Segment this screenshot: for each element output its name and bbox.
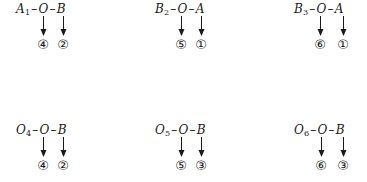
atom-symbol: B xyxy=(294,2,303,16)
formula-group-o4-o-b: O4–O–B ④ ② xyxy=(16,123,126,182)
formula-group-a1-o-b: A1–O–B ④ ② xyxy=(16,2,126,62)
atom-symbol: O xyxy=(294,123,304,137)
bond-dash: – xyxy=(190,123,196,137)
formula-group-o5-o-b: O5–O–B ⑤ ③ xyxy=(155,123,265,182)
atom-symbol: O xyxy=(178,2,188,16)
atom-symbol: O xyxy=(317,2,327,16)
formula-label: B3–O–A xyxy=(294,2,344,16)
atom-symbol: B xyxy=(57,2,66,16)
formula-label: B2–O–A xyxy=(155,2,205,16)
circled-number: ① xyxy=(336,38,350,52)
atom-symbol: A xyxy=(335,2,344,16)
down-arrow-icon xyxy=(177,16,186,36)
atom-subscript: 6 xyxy=(304,129,309,138)
bond-dash: – xyxy=(189,2,195,16)
circled-number: ④ xyxy=(36,159,50,173)
atom-subscript: 1 xyxy=(25,8,30,17)
down-arrow-icon xyxy=(316,16,325,36)
down-arrow-icon xyxy=(339,16,348,36)
atom-symbol: O xyxy=(179,123,189,137)
bond-dash: – xyxy=(32,123,38,137)
atom-symbol: O xyxy=(40,123,50,137)
atom-subscript: 3 xyxy=(303,8,308,17)
bond-dash: – xyxy=(329,123,335,137)
formula-group-o6-o-b: O6–O–B ⑥ ③ xyxy=(294,123,367,182)
formula-label: O4–O–B xyxy=(16,123,67,137)
atom-symbol: B xyxy=(336,123,345,137)
bond-dash: – xyxy=(31,2,37,16)
bond-dash: – xyxy=(49,2,55,16)
bond-dash: – xyxy=(310,123,316,137)
bond-dash: – xyxy=(328,2,334,16)
atom-symbol: A xyxy=(196,2,205,16)
circled-number: ⑥ xyxy=(313,38,327,52)
circled-number: ② xyxy=(56,38,70,52)
down-arrow-icon xyxy=(339,137,348,157)
formula-group-b3-o-a: B3–O–A ⑥ ① xyxy=(294,2,367,62)
atom-symbol: O xyxy=(155,123,165,137)
atom-symbol: O xyxy=(38,2,48,16)
down-arrow-icon xyxy=(39,137,48,157)
down-arrow-icon xyxy=(59,137,68,157)
down-arrow-icon xyxy=(317,137,326,157)
down-arrow-icon xyxy=(59,16,68,36)
formula-label: A1–O–B xyxy=(16,2,66,16)
bond-dash: – xyxy=(309,2,315,16)
circled-number: ③ xyxy=(194,159,208,173)
bond-dash: – xyxy=(51,123,57,137)
circled-number: ① xyxy=(194,38,208,52)
circled-number: ② xyxy=(56,159,70,173)
atom-symbol: B xyxy=(155,2,164,16)
down-arrow-icon xyxy=(197,137,206,157)
atom-symbol: O xyxy=(318,123,328,137)
bond-dash: – xyxy=(170,2,176,16)
circled-number: ⑤ xyxy=(174,38,188,52)
atom-subscript: 2 xyxy=(164,8,169,17)
atom-symbol: B xyxy=(197,123,206,137)
circled-number: ③ xyxy=(336,159,350,173)
circled-number: ⑥ xyxy=(314,159,328,173)
formula-group-b2-o-a: B2–O–A ⑤ ① xyxy=(155,2,265,62)
bond-dash: – xyxy=(171,123,177,137)
atom-subscript: 5 xyxy=(165,129,170,138)
atom-subscript: 4 xyxy=(26,129,31,138)
down-arrow-icon xyxy=(177,137,186,157)
formula-label: O6–O–B xyxy=(294,123,345,137)
circled-number: ④ xyxy=(36,38,50,52)
atom-symbol: B xyxy=(58,123,67,137)
formula-label: O5–O–B xyxy=(155,123,206,137)
circled-number: ⑤ xyxy=(174,159,188,173)
atom-symbol: O xyxy=(16,123,26,137)
down-arrow-icon xyxy=(197,16,206,36)
atom-symbol: A xyxy=(16,2,25,16)
down-arrow-icon xyxy=(39,16,48,36)
